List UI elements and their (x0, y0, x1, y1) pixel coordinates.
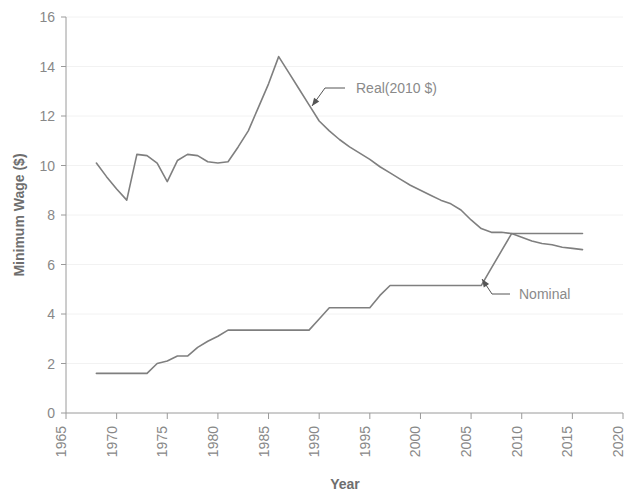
y-tick-label: 16 (39, 9, 55, 25)
x-tick-label: 1995 (357, 426, 373, 457)
minimum-wage-line-chart: 0246810121416 19651970197519801985199019… (0, 0, 643, 497)
x-axis-title: Year (330, 476, 360, 492)
y-tick-label: 10 (39, 158, 55, 174)
y-tick-label: 6 (47, 257, 55, 273)
y-axis-title: Minimum Wage ($) (11, 153, 27, 276)
x-tick-label: 2010 (509, 426, 525, 457)
annotations-group: Real(2010 $)Nominal (312, 80, 570, 302)
series-line (96, 234, 582, 374)
y-axis-ticks (61, 17, 66, 413)
x-tick-label: 1965 (53, 426, 69, 457)
x-axis-ticks (66, 413, 623, 419)
y-tick-label: 4 (47, 306, 55, 322)
x-tick-label: 1990 (306, 426, 322, 457)
y-axis-tick-labels: 0246810121416 (39, 9, 55, 421)
chart-canvas: 0246810121416 19651970197519801985199019… (0, 0, 643, 497)
y-tick-label: 14 (39, 59, 55, 75)
x-tick-label: 1970 (104, 426, 120, 457)
series-line (96, 57, 582, 250)
x-tick-label: 2015 (559, 426, 575, 457)
annotation-label: Real(2010 $) (356, 80, 437, 96)
x-tick-label: 1985 (256, 426, 272, 457)
y-tick-label: 0 (47, 405, 55, 421)
x-tick-label: 1980 (205, 426, 221, 457)
y-tick-label: 2 (47, 356, 55, 372)
x-tick-label: 1975 (154, 426, 170, 457)
annotation-arrowhead (312, 98, 319, 106)
y-tick-label: 8 (47, 207, 55, 223)
annotation-arrowhead (482, 279, 489, 287)
grid-lines (66, 17, 623, 364)
x-axis-tick-labels: 1965197019751980198519901995200020052010… (53, 426, 626, 457)
x-tick-label: 2000 (407, 426, 423, 457)
annotation-label: Nominal (519, 286, 570, 302)
x-tick-label: 2005 (458, 426, 474, 457)
y-tick-label: 12 (39, 108, 55, 124)
x-tick-label: 2020 (610, 426, 626, 457)
